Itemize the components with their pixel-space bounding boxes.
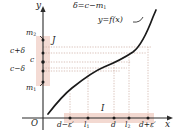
y-tick-c: c bbox=[30, 56, 34, 64]
y-axis-arrow bbox=[40, 6, 45, 12]
y-tick-c-plus-delta: c+δ bbox=[10, 47, 25, 55]
y-tick-m2: m2 bbox=[26, 29, 36, 38]
x-tick-d-plus-eps: d+ε′ bbox=[139, 121, 156, 129]
y-axis-label: y bbox=[36, 1, 41, 10]
x-tick-l2: l2 bbox=[125, 121, 130, 130]
vertical-guides bbox=[70, 47, 148, 118]
y-tick-m1: m1 bbox=[26, 84, 36, 93]
x-tick-d: d bbox=[111, 121, 116, 129]
x-axis-label: x bbox=[165, 120, 170, 129]
x-tick-l1: l1 bbox=[84, 121, 89, 130]
origin-label: O bbox=[31, 119, 38, 128]
figure-canvas bbox=[0, 0, 177, 138]
interval-i-label: I bbox=[101, 104, 104, 113]
x-tick-d-minus-eps: d−ε′ bbox=[57, 121, 74, 129]
delta-relation-label: δ=c−m1 bbox=[73, 2, 106, 10]
epsilon-delta-figure: y x O δ=c−m1 y=f(x) J I m2 c+δ c c−δ m1 … bbox=[0, 0, 177, 138]
curve-label-leader bbox=[133, 17, 143, 22]
curve-equation-label: y=f(x) bbox=[98, 16, 123, 24]
y-tick-c-minus-delta: c−δ bbox=[10, 65, 25, 73]
interval-j-label: J bbox=[52, 36, 55, 45]
